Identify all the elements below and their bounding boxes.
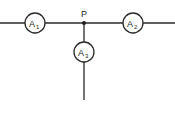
ammeter-a1: A 1 <box>25 13 45 33</box>
ammeter-a3-symbol: A <box>78 48 84 58</box>
circuit-diagram: A 1 A 2 A 3 P <box>0 0 175 113</box>
ammeter-a1-symbol: A <box>29 19 35 29</box>
ammeter-a2-symbol: A <box>127 19 133 29</box>
junction-dot <box>82 21 86 25</box>
ammeter-a3: A 3 <box>74 42 94 62</box>
junction-label: P <box>81 9 87 19</box>
ammeter-a2: A 2 <box>123 13 143 33</box>
